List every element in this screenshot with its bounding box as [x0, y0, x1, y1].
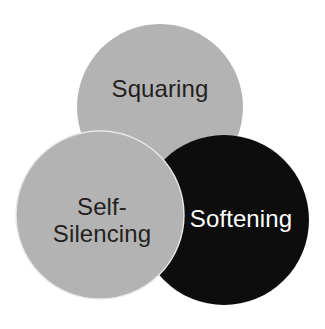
- circle-self-silencing[interactable]: [16, 131, 184, 299]
- venn-circles-group: [0, 0, 325, 329]
- venn-diagram: Squaring Softening Self- Silencing: [0, 0, 325, 329]
